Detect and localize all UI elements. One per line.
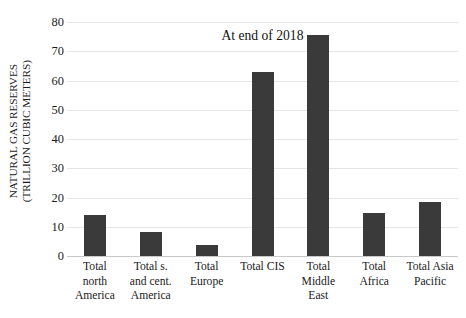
y-axis-title-line-1: NATURAL GAS RESERVES bbox=[7, 60, 20, 202]
y-tick-label-30: 30 bbox=[38, 162, 64, 174]
x-tick-label-line: Total s. bbox=[119, 260, 183, 275]
x-tick-label-line: Total Asia bbox=[398, 260, 462, 275]
y-tick-label-20: 20 bbox=[38, 191, 64, 203]
x-tick-label-line: Pacific bbox=[398, 275, 462, 290]
y-axis-tick-labels: 01020304050607080 bbox=[38, 0, 64, 262]
y-axis-title: NATURAL GAS RESERVES (TRILLION CUBIC MET… bbox=[0, 0, 40, 262]
x-tick-label-line: and cent. bbox=[119, 275, 183, 290]
x-tick-label-line: Total CIS bbox=[231, 260, 295, 275]
x-tick-label-line: America bbox=[119, 289, 183, 304]
bar-0 bbox=[84, 215, 106, 256]
x-tick-label-5: TotalAfrica bbox=[342, 260, 406, 289]
y-tick-label-40: 40 bbox=[38, 133, 64, 145]
x-tick-label-line: Total bbox=[63, 260, 127, 275]
y-tick-label-60: 60 bbox=[38, 74, 64, 86]
bar-chart: NATURAL GAS RESERVES (TRILLION CUBIC MET… bbox=[0, 0, 466, 318]
x-tick-label-6: Total AsiaPacific bbox=[398, 260, 462, 289]
x-tick-label-3: Total CIS bbox=[231, 260, 295, 275]
bar-5 bbox=[363, 213, 385, 256]
x-tick-label-line: East bbox=[286, 289, 350, 304]
bar-6 bbox=[419, 202, 441, 256]
y-tick-label-0: 0 bbox=[38, 250, 64, 262]
x-tick-label-0: TotalnorthAmerica bbox=[63, 260, 127, 304]
x-tick-label-1: Total s.and cent.America bbox=[119, 260, 183, 304]
y-tick-label-70: 70 bbox=[38, 45, 64, 57]
gridline-0 bbox=[67, 256, 458, 257]
y-tick-label-80: 80 bbox=[38, 16, 64, 28]
x-tick-label-line: north bbox=[63, 275, 127, 290]
x-axis-tick-labels: TotalnorthAmericaTotal s.and cent.Americ… bbox=[67, 260, 458, 318]
y-tick-label-50: 50 bbox=[38, 104, 64, 116]
y-axis-title-line-2: (TRILLION CUBIC METERS) bbox=[20, 60, 33, 202]
plot-area: At end of 2018 bbox=[67, 22, 458, 256]
x-tick-label-line: America bbox=[63, 289, 127, 304]
x-tick-label-2: TotalEurope bbox=[175, 260, 239, 289]
x-tick-label-4: TotalMiddleEast bbox=[286, 260, 350, 304]
x-tick-label-line: Middle bbox=[286, 275, 350, 290]
bar-4 bbox=[307, 35, 329, 256]
y-tick-label-10: 10 bbox=[38, 221, 64, 233]
x-tick-label-line: Africa bbox=[342, 275, 406, 290]
x-tick-label-line: Total bbox=[342, 260, 406, 275]
bar-1 bbox=[140, 232, 162, 256]
x-tick-label-line: Total bbox=[286, 260, 350, 275]
bars bbox=[67, 22, 458, 256]
bar-2 bbox=[196, 245, 218, 256]
x-tick-label-line: Europe bbox=[175, 275, 239, 290]
x-tick-label-line: Total bbox=[175, 260, 239, 275]
bar-3 bbox=[252, 72, 274, 256]
